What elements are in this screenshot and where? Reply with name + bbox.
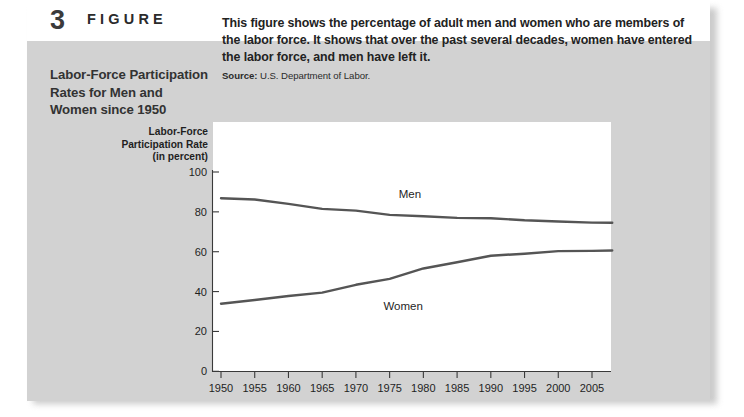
series-inline-labels: MenWomen — [383, 188, 422, 312]
x-tick-label: 1950 — [209, 382, 233, 394]
y-tick-label: 60 — [195, 246, 207, 258]
x-tick-label: 1990 — [479, 382, 503, 394]
y-tick-label: 20 — [195, 325, 207, 337]
series-label-women: Women — [383, 300, 422, 312]
x-tick-label: 1980 — [411, 382, 435, 394]
series-label-men: Men — [399, 188, 421, 200]
series-line-men — [221, 198, 612, 223]
x-tick-label: 1955 — [242, 382, 266, 394]
figure-page: 3 FIGURE Labor-Force Participation Rates… — [0, 0, 744, 417]
x-tick-label: 1960 — [276, 382, 300, 394]
y-tick-label: 0 — [201, 365, 207, 377]
chart-series — [221, 198, 612, 303]
y-tick-label: 40 — [195, 286, 207, 298]
x-tick-label: 2000 — [546, 382, 570, 394]
y-axis-ticks: 020406080100 — [189, 166, 219, 377]
x-tick-label: 1965 — [310, 382, 334, 394]
y-tick-label: 100 — [189, 166, 207, 178]
series-line-women — [221, 251, 612, 304]
line-chart: 020406080100 195019551960196519701975198… — [0, 0, 744, 417]
x-tick-label: 2005 — [580, 382, 604, 394]
x-tick-label: 1995 — [512, 382, 536, 394]
x-tick-label: 1970 — [344, 382, 368, 394]
x-tick-label: 1975 — [377, 382, 401, 394]
x-tick-label: 1985 — [445, 382, 469, 394]
x-axis-ticks: 1950195519601965197019751980198519901995… — [209, 372, 604, 395]
y-tick-label: 80 — [195, 206, 207, 218]
